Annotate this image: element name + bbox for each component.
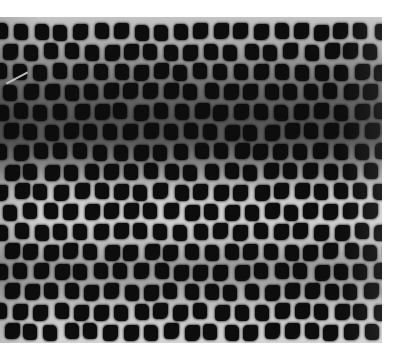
grid-dot (193, 303, 207, 319)
grid-dot (135, 304, 149, 320)
grid-dot (205, 284, 219, 300)
grid-dot (5, 283, 20, 299)
grid-dot (23, 164, 37, 180)
grid-dot (314, 103, 329, 119)
grid-dot (375, 143, 382, 159)
grid-dot (125, 285, 139, 301)
grid-dot (283, 43, 298, 59)
grid-dot (45, 125, 59, 141)
grid-dot (24, 45, 38, 61)
grid-dot (355, 104, 370, 120)
grid-dot (203, 324, 217, 340)
grid-dot (35, 24, 49, 40)
grid-dot (254, 223, 268, 239)
grid-dot (144, 163, 158, 179)
grid-dot (194, 224, 208, 240)
grid-dot (73, 64, 88, 80)
grid-dot (155, 263, 169, 279)
grid-dot (343, 164, 357, 180)
grid-dot (374, 103, 382, 119)
grid-dot (25, 284, 40, 300)
grid-dot (274, 183, 289, 199)
grid-dot (303, 245, 318, 261)
grid-dot (294, 23, 309, 39)
grid-dot (164, 83, 179, 99)
grid-dot (325, 284, 339, 300)
grid-dot (3, 44, 18, 60)
grid-dot (185, 244, 199, 260)
grid-dot (94, 224, 109, 240)
grid-dot (13, 263, 27, 279)
grid-dot (134, 263, 149, 279)
grid-dot (123, 245, 138, 261)
grid-dot (153, 183, 168, 199)
grid-dot (303, 163, 318, 179)
grid-dot (345, 243, 359, 259)
grid-dot (114, 145, 128, 161)
grid-dot (85, 45, 99, 61)
grid-dot (65, 85, 79, 101)
grid-dot (3, 85, 17, 101)
grid-dot (204, 44, 218, 60)
grid-dot (0, 63, 7, 79)
grid-dot (3, 205, 17, 221)
grid-dot (245, 284, 259, 300)
grid-dot (305, 283, 320, 299)
grid-dot (164, 203, 179, 219)
grid-dot (53, 143, 67, 159)
grid-dot (333, 23, 348, 39)
grid-dot (214, 143, 228, 159)
grid-dot (0, 185, 8, 201)
grid-dot (285, 245, 299, 261)
grid-dot (214, 23, 229, 39)
grid-dot (254, 24, 269, 40)
grid-dot (284, 205, 298, 221)
grid-dot (0, 264, 8, 280)
grid-dot (324, 164, 338, 180)
grid-dot (15, 183, 30, 199)
grid-dot (183, 165, 197, 181)
grid-dot (254, 263, 268, 279)
grid-dot (315, 65, 329, 81)
grid-dot (334, 183, 348, 199)
grid-dot (225, 325, 239, 341)
grid-dot (104, 164, 119, 180)
grid-dot (265, 285, 280, 301)
grid-dot (305, 323, 319, 339)
grid-dot (103, 124, 117, 140)
grid-dot (214, 185, 229, 201)
grid-dot (343, 284, 357, 300)
grid-dot (304, 123, 318, 139)
grid-dot (174, 265, 189, 281)
grid-dot (23, 244, 38, 260)
grid-dot (325, 43, 340, 59)
grid-dot (44, 245, 59, 261)
grid-dot (364, 163, 378, 179)
grid-dot (203, 124, 217, 140)
grid-dot (205, 245, 219, 261)
grid-dot (143, 83, 158, 99)
grid-dot (225, 205, 240, 221)
grid-dot (4, 123, 19, 139)
grid-dot (185, 284, 199, 300)
grid-dot (174, 144, 188, 160)
grid-dot (213, 223, 228, 239)
grid-dot (0, 144, 7, 160)
grid-dot (104, 203, 119, 219)
grid-dot (43, 325, 57, 341)
grid-dot (33, 105, 47, 121)
grid-dot (283, 84, 297, 100)
grid-dot (175, 104, 189, 120)
grid-dot (223, 285, 237, 301)
grid-dot (374, 65, 382, 81)
grid-dot (173, 225, 187, 241)
grid-dot (55, 264, 70, 280)
grid-dot (233, 23, 248, 39)
grid-dot (143, 44, 157, 60)
grid-dot (275, 23, 289, 39)
grid-dot (335, 304, 350, 320)
grid-dot (335, 225, 350, 241)
grid-dot (294, 104, 309, 120)
grid-dot (293, 223, 308, 239)
grid-dot (223, 45, 237, 61)
